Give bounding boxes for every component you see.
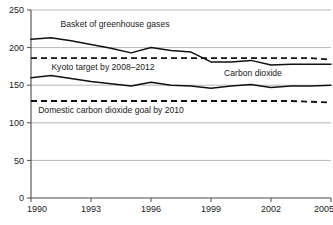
annotation-label-2: Carbon dioxide <box>224 68 282 78</box>
y-tick-label-200: 200 <box>9 43 24 53</box>
x-tick-label-1993: 1993 <box>81 204 101 214</box>
y-axis-tick-labels: 050100150200250 <box>9 5 24 203</box>
annotation-label-3: Domestic carbon dioxide goal by 2010 <box>38 105 184 115</box>
x-tick-label-2005: 2005 <box>314 204 333 214</box>
chart-axes <box>31 10 331 198</box>
y-tick-label-150: 150 <box>9 80 24 90</box>
y-tick-label-250: 250 <box>9 5 24 15</box>
series-line-2 <box>31 58 331 60</box>
chart-container: 050100150200250 199019931996199920022005… <box>0 0 333 225</box>
y-tick-label-0: 0 <box>19 193 24 203</box>
series-line-0 <box>31 38 331 65</box>
y-tick-label-100: 100 <box>9 118 24 128</box>
x-tick-label-1996: 1996 <box>141 204 161 214</box>
series-line-1 <box>31 75 331 88</box>
annotation-label-0: Basket of greenhouse gases <box>61 19 170 29</box>
x-tick-label-1999: 1999 <box>201 204 221 214</box>
y-tick-label-50: 50 <box>14 156 24 166</box>
x-tick-label-1990: 1990 <box>27 204 47 214</box>
x-tick-label-2002: 2002 <box>261 204 281 214</box>
line-chart: 050100150200250 199019931996199920022005… <box>0 0 333 225</box>
annotation-label-1: Kyoto target by 2008–2012 <box>51 62 154 72</box>
series-line-3 <box>31 101 331 103</box>
x-axis-tick-labels: 199019931996199920022005 <box>27 204 333 214</box>
